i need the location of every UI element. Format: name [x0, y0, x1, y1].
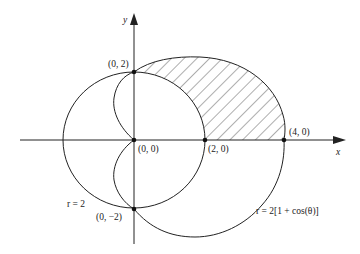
label-point-0-0: (0, 0)	[138, 144, 159, 155]
label-cardioid: r = 2[1 + cos(θ)]	[256, 206, 319, 217]
label-point-2-0: (2, 0)	[208, 144, 229, 155]
point-0-m2	[132, 207, 137, 212]
y-axis-label: y	[122, 15, 128, 25]
label-point-4-0: (4, 0)	[289, 127, 310, 138]
shaded-region	[114, 57, 285, 140]
label-circle: r = 2	[67, 199, 85, 209]
point-2-0	[203, 138, 208, 143]
point-0-2	[132, 70, 137, 75]
label-point-0-m2: (0, −2)	[96, 212, 122, 223]
point-0-0	[132, 138, 137, 143]
point-4-0	[282, 138, 287, 143]
x-axis-arrow-icon	[333, 136, 346, 144]
x-axis-label: x	[335, 147, 341, 157]
polar-diagram: y x (0, 2) (0, 0) (2, 0) (4, 0) (0, −2) …	[0, 0, 360, 254]
label-point-0-2: (0, 2)	[108, 59, 129, 70]
y-axis-arrow-icon	[130, 13, 138, 25]
